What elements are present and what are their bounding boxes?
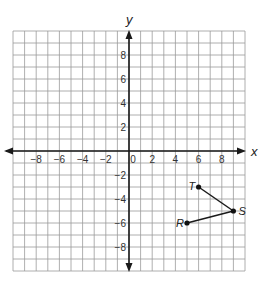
point-S: [231, 208, 236, 213]
y-tick-label: −2: [115, 170, 127, 181]
x-tick-label: 0: [130, 154, 136, 165]
axes: [4, 30, 246, 272]
x-axis-label: x: [250, 144, 258, 159]
y-tick-label: 2: [120, 122, 126, 133]
x-tick-label: 6: [196, 154, 202, 165]
point-label-R: R: [176, 217, 184, 229]
x-tick-label: −4: [77, 154, 89, 165]
x-tick-label: 2: [149, 154, 155, 165]
y-tick-label: 8: [120, 50, 126, 61]
point-T: [196, 184, 201, 189]
x-tick-label: −2: [100, 154, 112, 165]
coordinate-plane: −8−6−4−2024688642−2−4−6−8 TSR x y: [0, 0, 266, 283]
point-label-T: T: [189, 180, 197, 192]
y-tick-label: 4: [120, 98, 126, 109]
x-axis-arrow-left-icon: [4, 148, 13, 155]
y-tick-label: 6: [120, 74, 126, 85]
x-tick-label: −8: [30, 154, 42, 165]
x-tick-label: 4: [173, 154, 179, 165]
x-tick-label: 8: [219, 154, 225, 165]
x-tick-label: −6: [54, 154, 66, 165]
y-tick-label: −6: [115, 218, 127, 229]
y-tick-label: −8: [115, 242, 127, 253]
y-tick-label: −4: [115, 194, 127, 205]
y-axis-label: y: [125, 12, 134, 27]
point-R: [184, 220, 189, 225]
point-label-S: S: [238, 205, 246, 217]
